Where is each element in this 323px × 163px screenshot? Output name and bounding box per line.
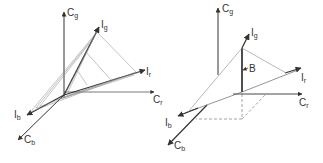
- cb-label: Cb: [174, 140, 185, 152]
- cb-axis: [168, 105, 207, 145]
- ig-label: Ig: [251, 27, 258, 40]
- b-label: B: [249, 63, 256, 74]
- cg-label: Cg: [67, 7, 78, 20]
- triangle-lines: [188, 48, 286, 112]
- projection-lines: [30, 32, 140, 112]
- cr-label: Cr: [153, 94, 163, 106]
- ig-label: Ig: [101, 19, 108, 32]
- b-pointer-icon: [243, 68, 248, 70]
- ig-vector: [242, 34, 249, 48]
- cg-label: Cg: [222, 3, 233, 16]
- left-primaries-diagram: Cg Ig Ir Cr Ib Cb: [14, 7, 163, 146]
- right-projection-diagram: B Cg Ig Ir Cr Ib Cb: [165, 3, 309, 152]
- cr-label: Cr: [299, 97, 309, 109]
- ir-label: Ir: [146, 66, 152, 78]
- dashed-projection: [196, 94, 266, 119]
- diagram-canvas: Cg Ig Ir Cr Ib Cb: [0, 0, 323, 163]
- ib-label: Ib: [165, 117, 172, 129]
- ir-label: Ir: [301, 72, 307, 84]
- cb-label: Cb: [24, 134, 35, 146]
- ib-vector: [27, 95, 64, 115]
- ib-label: Ib: [14, 109, 21, 121]
